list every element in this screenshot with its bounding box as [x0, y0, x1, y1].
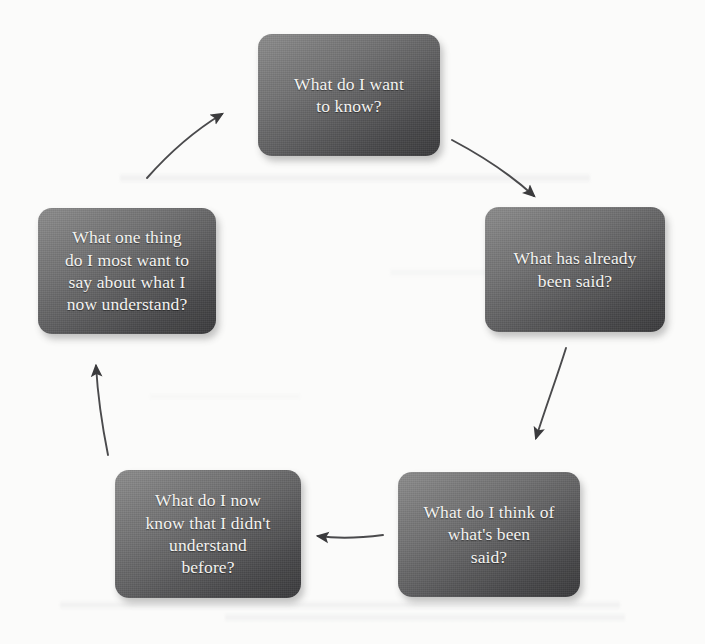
page-bleedthrough-artifact [120, 172, 590, 184]
node-label: What one thing do I most want to say abo… [65, 226, 189, 316]
page-bleedthrough-artifact [150, 392, 300, 401]
page-bleedthrough-artifact [60, 600, 620, 610]
node-label: What do I now know that I didn't underst… [145, 489, 270, 579]
page-bleedthrough-artifact [225, 612, 625, 623]
arrow-one-thing-to-want-to-know [147, 114, 222, 178]
diagram-canvas: What do I want to know? What has already… [0, 0, 705, 644]
node-label: What do I want to know? [294, 73, 404, 118]
node-what-i-think: What do I think of what's been said? [398, 472, 580, 597]
node-now-know: What do I now know that I didn't underst… [115, 470, 301, 598]
arrow-want-to-know-to-already-said [452, 140, 534, 196]
node-already-said: What has already been said? [485, 207, 665, 332]
arrow-what-i-think-to-now-know [318, 535, 383, 538]
node-one-thing-to-say: What one thing do I most want to say abo… [38, 208, 216, 334]
node-want-to-know: What do I want to know? [258, 34, 440, 156]
arrow-now-know-to-one-thing [96, 366, 108, 455]
arrow-already-said-to-what-i-think [536, 348, 566, 438]
node-label: What has already been said? [513, 247, 636, 292]
node-label: What do I think of what's been said? [423, 501, 554, 568]
